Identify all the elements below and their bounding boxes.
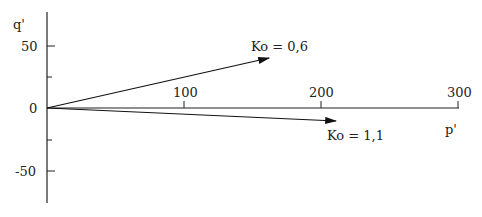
series-label-lower: Ko = 1,1 bbox=[327, 128, 384, 143]
x-tick-label-300: 300 bbox=[447, 85, 472, 100]
series-ko-11-arrow bbox=[47, 108, 336, 121]
stress-path-chart: q' 50 0 -50 100 200 300 p' Ko = 0,6 Ko =… bbox=[0, 0, 482, 217]
series-label-upper: Ko = 0,6 bbox=[251, 39, 308, 54]
x-tick-label-100: 100 bbox=[173, 85, 198, 100]
x-axis-label: p' bbox=[445, 122, 457, 137]
x-tick-label-200: 200 bbox=[309, 85, 334, 100]
y-tick-label-0: 0 bbox=[29, 101, 37, 116]
y-tick-label-m50: -50 bbox=[15, 164, 36, 179]
series-ko-06-arrow bbox=[47, 58, 269, 108]
y-axis-label: q' bbox=[13, 17, 25, 32]
y-tick-label-50: 50 bbox=[21, 39, 38, 54]
